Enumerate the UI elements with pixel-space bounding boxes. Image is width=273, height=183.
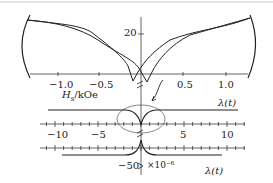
mid-x-tick-5: 5 (180, 129, 186, 140)
top-x-tick-05: 0.5 (177, 79, 193, 90)
top-x-axis-label: Hs/kOe (62, 89, 98, 103)
bottom-y-tick-neg50: −50 (118, 160, 139, 171)
middle-lambda-plot (40, 100, 245, 175)
figure: 20 −1.0 −0.5 0.5 1.0 Hs/kOe λ(t) −10 −5 … (0, 0, 273, 183)
mid-x-tick-10: 10 (221, 129, 234, 140)
x-label-symbol: H (62, 89, 71, 100)
mid-x-tick-neg5: −5 (91, 129, 106, 140)
x-label-unit: /kOe (74, 89, 98, 100)
middle-curve-label: λ(t) (218, 97, 236, 108)
bottom-curve-label: λ(t) (205, 165, 223, 176)
top-y-tick-20: 20 (124, 27, 137, 38)
top-x-tick-1: 1.0 (218, 79, 234, 90)
mid-x-tick-neg10: −10 (47, 129, 68, 140)
bottom-scale-note: ×10⁻⁶ (147, 160, 174, 170)
